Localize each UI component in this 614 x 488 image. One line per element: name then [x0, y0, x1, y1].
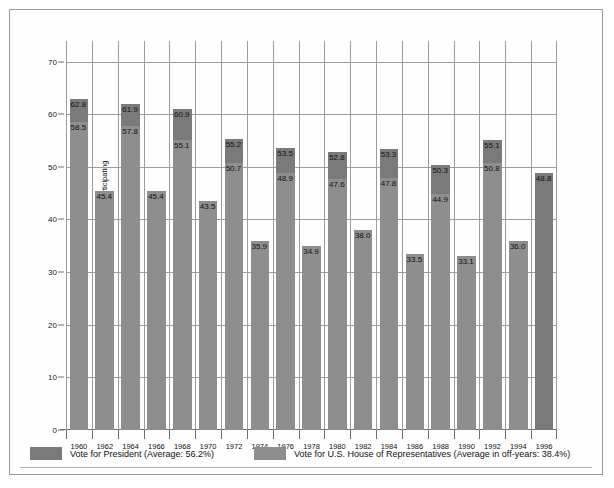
bar-segment-house[interactable]: [199, 201, 218, 430]
x-axis-tick-mark: [273, 430, 274, 439]
bar-value-label-house: 57.8: [122, 127, 138, 136]
bar-group[interactable]: 33.1: [457, 41, 476, 430]
x-axis-tick-mark: [324, 430, 325, 439]
bar-value-label-house: 35.9: [252, 242, 268, 251]
bar-group[interactable]: 36.0: [509, 41, 528, 430]
y-axis-tick-label: 30: [48, 268, 57, 277]
x-axis-tick-mark: [454, 430, 455, 439]
bar-group[interactable]: 43.5: [199, 41, 218, 430]
bar-segment-house[interactable]: [121, 126, 140, 430]
legend-label: Vote for U.S. House of Representatives (…: [294, 449, 570, 459]
bar-value-label-house: 33.5: [407, 255, 423, 264]
x-axis-tick-mark: [66, 430, 67, 439]
gridline-vertical: [273, 41, 274, 430]
x-axis-tick-mark: [118, 430, 119, 439]
gridline-vertical: [428, 41, 429, 430]
x-axis-tick-mark: [350, 430, 351, 439]
bar-segment-house[interactable]: [173, 140, 192, 430]
bar-value-label-house: 34.9: [303, 247, 319, 256]
gridline-vertical: [505, 41, 506, 430]
bar-segment-house[interactable]: [70, 122, 89, 430]
bar-group[interactable]: 38.0: [354, 41, 373, 430]
x-axis-tick-mark: [556, 430, 557, 439]
bar-group[interactable]: 33.5: [406, 41, 425, 430]
bar-value-label-president: 60.9: [174, 110, 190, 119]
gridline-vertical: [402, 41, 403, 430]
bar-value-label-house: 36.0: [510, 242, 526, 251]
x-axis-tick-mark: [221, 430, 222, 439]
bar-value-label-house: 58.5: [71, 123, 87, 132]
bar-segment-house[interactable]: [354, 230, 373, 430]
gridline-vertical: [376, 41, 377, 430]
bar-segment-house[interactable]: [328, 179, 347, 430]
bar-segment-house[interactable]: [483, 163, 502, 430]
legend-color-swatch: [254, 447, 286, 460]
chart-frame: Percentage of voting-age population part…: [9, 9, 603, 475]
bar-group[interactable]: 62.858.5: [70, 41, 89, 430]
gridline-vertical: [350, 41, 351, 430]
bar-group[interactable]: 34.9: [302, 41, 321, 430]
bar-value-label-house: 44.9: [432, 195, 448, 204]
gridline-vertical: [531, 41, 532, 430]
bar-group[interactable]: 35.9: [251, 41, 270, 430]
bar-group[interactable]: 55.250.7: [225, 41, 244, 430]
bar-segment-house[interactable]: [302, 246, 321, 430]
x-axis-tick-mark: [169, 430, 170, 439]
bar-group[interactable]: 45.4: [95, 41, 114, 430]
bar-segment-house[interactable]: [251, 241, 270, 430]
y-axis-tick-mark: [58, 61, 64, 62]
x-axis-tick-mark: [299, 430, 300, 439]
bar-group[interactable]: 60.955.1: [173, 41, 192, 430]
bar-value-label-house: 43.5: [200, 202, 216, 211]
bar-group[interactable]: 52.847.6: [328, 41, 347, 430]
plot-area: 01020304050607062.858.5196045.4196261.95…: [66, 41, 557, 430]
gridline-vertical: [479, 41, 480, 430]
y-axis-tick-label: 20: [48, 320, 57, 329]
gridline-vertical: [195, 41, 196, 430]
bar-group[interactable]: 53.347.8: [380, 41, 399, 430]
bar-value-label-house: 47.6: [329, 180, 345, 189]
bar-value-label-house: 47.8: [381, 179, 397, 188]
bar-group[interactable]: 45.4: [147, 41, 166, 430]
x-axis-tick-mark: [247, 430, 248, 439]
bar-segment-president[interactable]: [535, 173, 554, 430]
bar-segment-house[interactable]: [457, 256, 476, 430]
bar-value-label-house: 50.8: [484, 164, 500, 173]
bar-value-label-president: 53.3: [381, 150, 397, 159]
legend-item[interactable]: Vote for President (Average: 56.2%): [30, 447, 214, 460]
y-axis-tick-label: 60: [48, 110, 57, 119]
bar-group[interactable]: 61.957.8: [121, 41, 140, 430]
bar-value-label-house: 48.9: [277, 174, 293, 183]
bar-group[interactable]: 53.548.9: [276, 41, 295, 430]
y-axis-tick-mark: [58, 166, 64, 167]
bar-group[interactable]: 48.8: [535, 41, 554, 430]
x-axis-tick-mark: [479, 430, 480, 439]
y-axis-tick-label: 70: [48, 57, 57, 66]
gridline-vertical: [169, 41, 170, 430]
bar-segment-house[interactable]: [276, 173, 295, 430]
x-axis-tick-mark: [376, 430, 377, 439]
bar-segment-house[interactable]: [431, 194, 450, 430]
bar-group[interactable]: 55.150.8: [483, 41, 502, 430]
gridline-vertical: [118, 41, 119, 430]
legend-item[interactable]: Vote for U.S. House of Representatives (…: [254, 447, 570, 460]
bar-segment-house[interactable]: [406, 254, 425, 430]
gridline-vertical: [556, 41, 557, 430]
legend-separator: [20, 467, 592, 468]
x-axis-tick-mark: [428, 430, 429, 439]
bar-segment-house[interactable]: [225, 163, 244, 430]
y-axis-tick-mark: [58, 272, 64, 273]
bar-group[interactable]: 50.344.9: [431, 41, 450, 430]
bar-segment-house[interactable]: [147, 191, 166, 430]
bar-segment-house[interactable]: [509, 241, 528, 430]
y-axis-tick-label: 40: [48, 215, 57, 224]
y-axis-tick-label: 50: [48, 162, 57, 171]
bar-segment-house[interactable]: [380, 178, 399, 430]
bar-segment-house[interactable]: [95, 191, 114, 430]
y-axis-tick-mark: [58, 377, 64, 378]
bar-value-label-house: 33.1: [458, 257, 474, 266]
bar-value-label-house: 50.7: [226, 164, 242, 173]
x-axis-tick-mark: [92, 430, 93, 439]
gridline-vertical: [299, 41, 300, 430]
bar-value-label-president: 48.8: [536, 174, 552, 183]
